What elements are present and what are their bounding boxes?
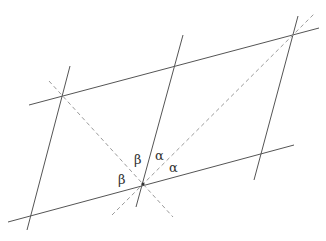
right-parallel-line bbox=[254, 16, 298, 180]
angle-label-alpha-lower: α bbox=[169, 160, 178, 175]
angle-label-alpha-upper: α bbox=[155, 148, 164, 163]
angle-labels: β β α α bbox=[118, 148, 178, 187]
angle-label-beta-upper: β bbox=[134, 152, 142, 167]
geometry-diagram: β β α α bbox=[0, 0, 326, 241]
lower-transversal-line bbox=[8, 145, 294, 222]
center-intersection-point bbox=[141, 182, 144, 185]
angle-label-beta-lower: β bbox=[118, 172, 126, 187]
solid-lines bbox=[8, 16, 319, 230]
intersection-points bbox=[141, 182, 144, 185]
left-parallel-line bbox=[27, 66, 70, 230]
dashed-lines bbox=[49, 13, 315, 217]
